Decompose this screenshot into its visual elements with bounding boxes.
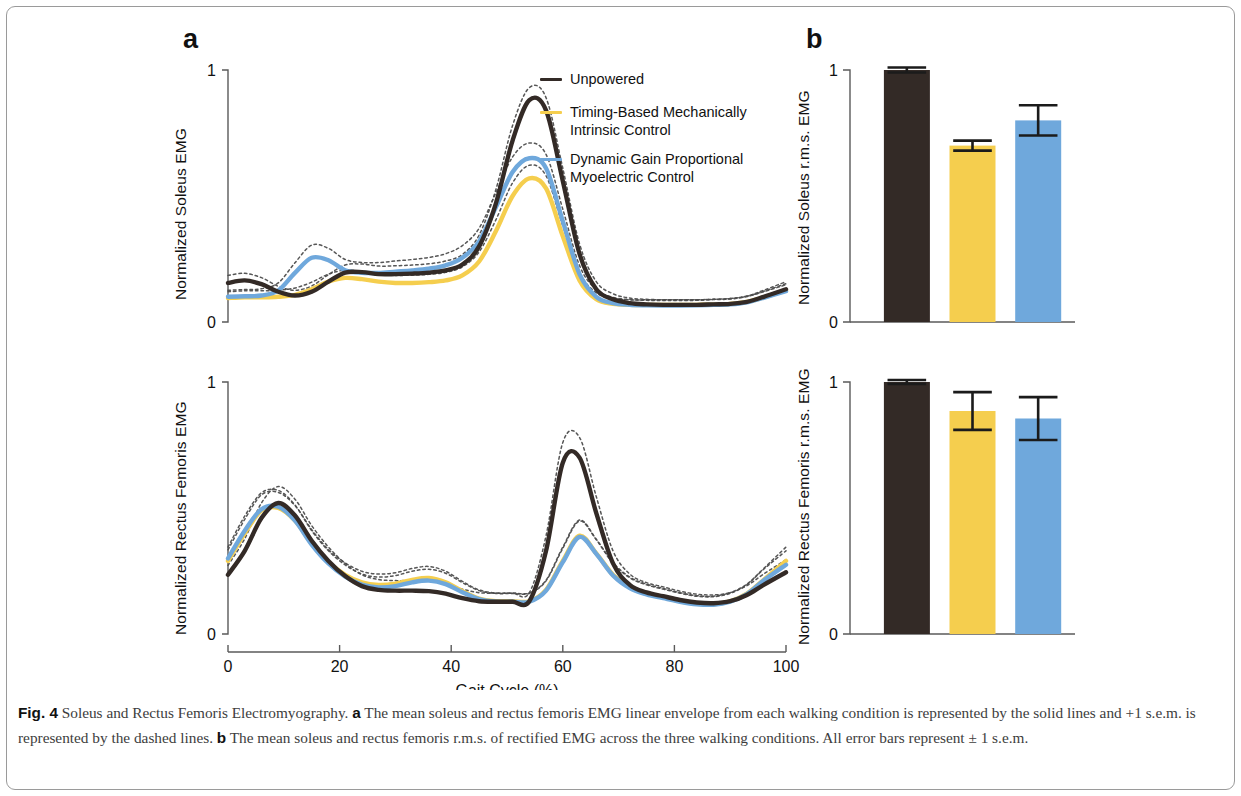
rectus-line-sem-curve-0 bbox=[228, 430, 786, 597]
x-axis-tick-label-5: 100 bbox=[773, 658, 800, 675]
caption-b-marker: b bbox=[217, 729, 226, 746]
rectus-line-group bbox=[222, 382, 786, 634]
x-axis-tick-label-0: 0 bbox=[224, 658, 233, 675]
soleus-bar-y-axis bbox=[843, 70, 850, 322]
x-axis-tick-label-4: 80 bbox=[666, 658, 684, 675]
legend-item-unpowered: Unpowered bbox=[540, 70, 644, 88]
rectus-bar-y-tick-label-0: 0 bbox=[829, 626, 838, 643]
rectus-line-mean-curve-2 bbox=[228, 506, 786, 605]
legend-item-timing-based: Timing-Based Mechanically Intrinsic Cont… bbox=[540, 103, 747, 139]
rectus-bar-y-axis bbox=[843, 382, 850, 634]
x-axis-tick-label-2: 40 bbox=[442, 658, 460, 675]
rectus-bar-bar-1 bbox=[950, 411, 996, 634]
soleus-bar-y-axis-label: Normalized Soleus r.m.s. EMG bbox=[795, 90, 813, 305]
soleus-bar-y-tick-label-1: 1 bbox=[829, 62, 838, 79]
legend-swatch-timing-based bbox=[540, 111, 562, 114]
rectus-line-y-tick-label-0: 0 bbox=[207, 626, 216, 643]
legend-label-timing-based: Timing-Based Mechanically Intrinsic Cont… bbox=[570, 103, 747, 139]
legend-label-unpowered: Unpowered bbox=[570, 70, 644, 88]
figure-caption: Fig. 4 Soleus and Rectus Femoris Electro… bbox=[18, 700, 1224, 750]
soleus-bar-y-tick-label-0: 0 bbox=[829, 314, 838, 331]
figure-root: a b 020406080100Gait Cycle (%)10101010 N… bbox=[0, 0, 1241, 796]
soleus-line-y-tick-label-0: 0 bbox=[207, 314, 216, 331]
rectus-line-y-axis bbox=[222, 382, 228, 634]
soleus-y-axis-label: Normalized Soleus EMG bbox=[172, 128, 190, 300]
rectus-bar-y-tick-label-1: 1 bbox=[829, 374, 838, 391]
caption-b-text: The mean soleus and rectus femoris r.m.s… bbox=[230, 729, 1029, 746]
rectus-line-mean-curve-0 bbox=[228, 451, 786, 605]
x-axis-title: Gait Cycle (%) bbox=[455, 682, 558, 690]
x-axis-tick-label-3: 60 bbox=[554, 658, 572, 675]
rectus-line-y-tick-label-1: 1 bbox=[207, 374, 216, 391]
rectus-bar-y-axis-label: Normalized Rectus Femoris r.m.s. EMG bbox=[795, 368, 813, 645]
legend-item-dynamic-gain: Dynamic Gain Proportional Myoelectric Co… bbox=[540, 150, 743, 186]
rectus-bar-bar-2 bbox=[1015, 419, 1061, 635]
soleus-bar-bar-2 bbox=[1015, 120, 1061, 322]
caption-title: Soleus and Rectus Femoris Electromyograp… bbox=[62, 704, 349, 721]
rectus-bar-bar-0 bbox=[884, 382, 930, 634]
soleus-bar-group bbox=[843, 68, 1075, 323]
x-axis-tick-label-1: 20 bbox=[331, 658, 349, 675]
legend-swatch-unpowered bbox=[540, 78, 562, 81]
legend-label-dynamic-gain: Dynamic Gain Proportional Myoelectric Co… bbox=[570, 150, 743, 186]
soleus-bar-bar-1 bbox=[950, 146, 996, 322]
x-axis-group: 020406080100Gait Cycle (%) bbox=[224, 645, 800, 690]
soleus-bar-bar-0 bbox=[884, 70, 930, 322]
rectus-bar-group bbox=[843, 380, 1075, 634]
caption-a-marker: a bbox=[352, 704, 361, 721]
rectus-line-mean-curve-1 bbox=[228, 507, 786, 604]
soleus-line-y-tick-label-1: 1 bbox=[207, 62, 216, 79]
rectus-y-axis-label: Normalized Rectus Femoris EMG bbox=[172, 401, 190, 635]
legend-swatch-dynamic-gain bbox=[540, 158, 562, 161]
caption-fig-label: Fig. 4 bbox=[18, 704, 58, 721]
